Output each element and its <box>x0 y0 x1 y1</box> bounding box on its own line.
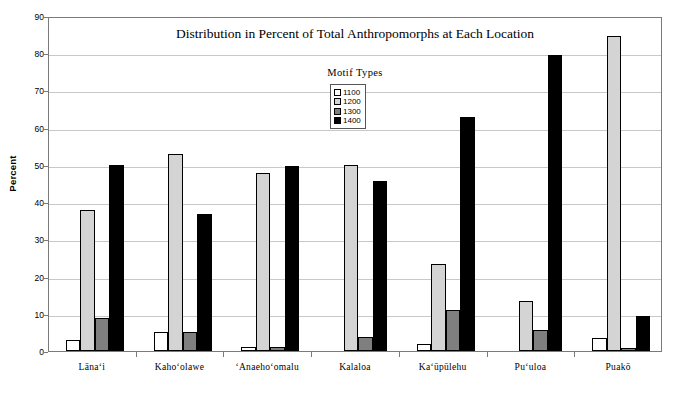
bar-1100[interactable] <box>154 332 169 351</box>
y-tick-label: 60 <box>18 124 44 134</box>
x-tick-mark <box>223 352 224 357</box>
legend: 1100120013001400 <box>330 84 366 129</box>
bar-1400[interactable] <box>197 214 212 351</box>
y-tick-mark <box>43 17 48 18</box>
legend-item-label: 1100 <box>343 88 360 97</box>
legend-swatch-icon <box>334 98 341 105</box>
bar-group <box>592 18 650 351</box>
x-tick-mark <box>311 352 312 357</box>
legend-item-label: 1300 <box>343 107 361 116</box>
x-axis-label: Kahoʻolawe <box>136 362 224 372</box>
legend-title: Motif Types <box>300 67 410 78</box>
bar-group <box>504 18 562 351</box>
x-tick-mark <box>399 352 400 357</box>
legend-item-1300[interactable]: 1300 <box>334 107 361 116</box>
y-tick-label: 20 <box>18 273 44 283</box>
y-tick-label: 40 <box>18 198 44 208</box>
bar-chart: Percent 0102030405060708090 Distribution… <box>0 0 676 400</box>
legend-swatch-icon <box>334 117 341 124</box>
bar-1400[interactable] <box>636 316 651 351</box>
bar-1100[interactable] <box>592 338 607 351</box>
bar-1100[interactable] <box>66 340 81 351</box>
y-tick-mark <box>43 166 48 167</box>
legend-item-1200[interactable]: 1200 <box>334 97 361 106</box>
x-axis-label: Lānaʻi <box>48 362 136 372</box>
bar-1200[interactable] <box>168 154 183 351</box>
y-tick-label: 50 <box>18 161 44 171</box>
bar-group <box>241 18 299 351</box>
y-tick-mark <box>43 278 48 279</box>
y-tick-mark <box>43 352 48 353</box>
x-tick-mark <box>574 352 575 357</box>
bar-1400[interactable] <box>460 117 475 351</box>
bar-1300[interactable] <box>270 347 285 351</box>
bar-1300[interactable] <box>446 310 461 351</box>
x-axis-label: ʻAnaehoʻomalu <box>223 362 311 372</box>
bar-1200[interactable] <box>431 264 446 351</box>
bar-1200[interactable] <box>607 36 622 351</box>
y-tick-label: 10 <box>18 310 44 320</box>
chart-title: Distribution in Percent of Total Anthrop… <box>48 26 662 42</box>
y-tick-label: 80 <box>18 49 44 59</box>
y-tick-label: 90 <box>18 12 44 22</box>
legend-item-label: 1200 <box>343 97 361 106</box>
bar-1200[interactable] <box>519 301 534 351</box>
bar-1200[interactable] <box>256 173 271 351</box>
legend-item-1400[interactable]: 1400 <box>334 116 361 125</box>
bar-1300[interactable] <box>95 318 110 352</box>
y-tick-mark <box>43 203 48 204</box>
x-tick-mark <box>136 352 137 357</box>
bar-group <box>154 18 212 351</box>
legend-item-1100[interactable]: 1100 <box>334 88 361 97</box>
bar-1400[interactable] <box>285 166 300 351</box>
bar-1300[interactable] <box>533 330 548 351</box>
bar-group <box>66 18 124 351</box>
bar-1300[interactable] <box>358 337 373 351</box>
x-tick-mark <box>487 352 488 357</box>
legend-item-label: 1400 <box>343 116 361 125</box>
y-tick-label: 70 <box>18 86 44 96</box>
y-tick-mark <box>43 54 48 55</box>
bar-1300[interactable] <box>183 332 198 351</box>
bar-1400[interactable] <box>548 55 563 351</box>
bar-1100[interactable] <box>241 347 256 351</box>
x-axis-label: Kaʻūpūlehu <box>399 362 487 372</box>
y-tick-mark <box>43 129 48 130</box>
y-tick-mark <box>43 91 48 92</box>
bar-1100[interactable] <box>417 344 432 351</box>
x-axis-label: Puakō <box>574 362 662 372</box>
legend-swatch-icon <box>334 89 341 96</box>
bar-1400[interactable] <box>373 181 388 351</box>
legend-swatch-icon <box>334 108 341 115</box>
y-tick-mark <box>43 315 48 316</box>
bar-1200[interactable] <box>80 210 95 351</box>
y-axis-title: Percent <box>7 144 18 204</box>
y-tick-label: 0 <box>18 347 44 357</box>
x-axis-label: Puʻuloa <box>487 362 575 372</box>
bar-1400[interactable] <box>109 165 124 351</box>
y-tick-label: 30 <box>18 235 44 245</box>
bar-1300[interactable] <box>621 348 636 351</box>
x-axis-label: Kalaloa <box>311 362 399 372</box>
bar-group <box>417 18 475 351</box>
y-tick-mark <box>43 240 48 241</box>
bar-1200[interactable] <box>344 165 359 351</box>
